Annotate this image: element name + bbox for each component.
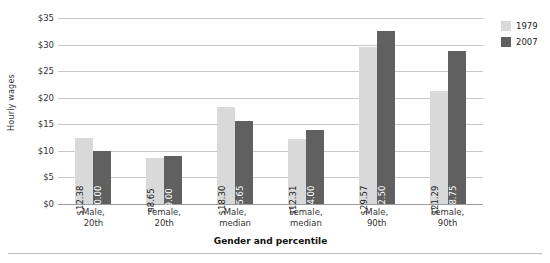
- bar[interactable]: $21.29: [430, 91, 448, 204]
- x-axis-category-line: 90th: [412, 218, 483, 229]
- bar[interactable]: $14.00: [306, 130, 324, 204]
- bar-group: $8.65$9.00: [129, 18, 200, 204]
- y-axis-title: Hourly wages: [0, 0, 22, 205]
- y-axis-tick-label: $25: [38, 66, 54, 76]
- x-axis-category-line: 90th: [341, 218, 412, 229]
- bar[interactable]: $10.00: [93, 151, 111, 204]
- x-axis-title: Gender and percentile: [58, 236, 483, 246]
- legend-swatch-icon: [501, 37, 511, 47]
- legend-item[interactable]: 1979: [501, 19, 549, 32]
- x-axis-category-label: Female,median: [270, 207, 341, 233]
- x-axis-category-line: median: [200, 218, 271, 229]
- bar[interactable]: $28.75: [448, 51, 466, 204]
- plot-area: $12.38$10.00$8.65$9.00$18.30$15.65$12.31…: [58, 18, 483, 204]
- axis-baseline: [58, 204, 483, 205]
- y-axis-tick-label: $15: [38, 119, 54, 129]
- bar-group: $18.30$15.65: [200, 18, 271, 204]
- x-axis-category-line: 20th: [129, 218, 200, 229]
- bar[interactable]: $15.65: [235, 121, 253, 204]
- bar[interactable]: $12.38: [75, 138, 93, 204]
- y-axis-tick-label: $10: [38, 146, 54, 156]
- legend-label: 1979: [516, 21, 538, 31]
- y-axis-tick-label: $0: [43, 199, 54, 209]
- bar-group: $21.29$28.75: [412, 18, 483, 204]
- bar-group: $12.31$14.00: [270, 18, 341, 204]
- legend-swatch-icon: [501, 21, 511, 31]
- bar[interactable]: $32.50: [377, 31, 395, 204]
- y-axis-tick-labels: $0$5$10$15$20$25$30$35: [24, 12, 56, 204]
- x-axis-category-line: 20th: [58, 218, 129, 229]
- legend: 19792007: [501, 19, 549, 51]
- y-axis-tick-label: $5: [43, 172, 54, 182]
- legend-label: 2007: [516, 37, 538, 47]
- x-axis-category-line: Male,: [341, 207, 412, 218]
- x-axis-category-line: Female,: [270, 207, 341, 218]
- y-axis-tick-label: $20: [38, 93, 54, 103]
- x-axis-category-line: median: [270, 218, 341, 229]
- bar-chart: Hourly wages $0$5$10$15$20$25$30$35 $12.…: [0, 0, 550, 263]
- bar[interactable]: $18.30: [217, 107, 235, 204]
- bar[interactable]: $12.31: [288, 139, 306, 204]
- x-axis-category-line: Female,: [412, 207, 483, 218]
- x-axis-category-line: Female,: [129, 207, 200, 218]
- y-axis-title-text: Hourly wages: [7, 74, 16, 131]
- y-axis-tick-label: $30: [38, 40, 54, 50]
- legend-item[interactable]: 2007: [501, 35, 549, 48]
- x-axis-category-label: Male,20th: [58, 207, 129, 233]
- y-axis-tick-label: $35: [38, 13, 54, 23]
- bar[interactable]: $8.65: [146, 158, 164, 204]
- x-axis-category-line: Male,: [58, 207, 129, 218]
- x-axis-category-labels: Male,20thFemale,20thMale,medianFemale,me…: [58, 207, 483, 233]
- x-axis-category-label: Female,90th: [412, 207, 483, 233]
- x-axis-category-label: Male,90th: [341, 207, 412, 233]
- x-axis-category-label: Male,median: [200, 207, 271, 233]
- bar[interactable]: $9.00: [164, 156, 182, 204]
- x-axis-category-line: Male,: [200, 207, 271, 218]
- bar-group: $29.57$32.50: [341, 18, 412, 204]
- bottom-divider: [8, 253, 542, 254]
- bar-group: $12.38$10.00: [58, 18, 129, 204]
- bar-groups: $12.38$10.00$8.65$9.00$18.30$15.65$12.31…: [58, 18, 483, 204]
- bar[interactable]: $29.57: [359, 47, 377, 204]
- x-axis-category-label: Female,20th: [129, 207, 200, 233]
